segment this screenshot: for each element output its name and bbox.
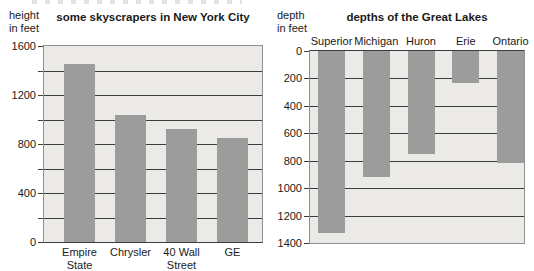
axis-tick (304, 133, 309, 134)
axis-tick (38, 193, 43, 194)
axis-tick (304, 216, 309, 217)
category-label-ontario: Ontario (492, 35, 528, 48)
axis-tick (304, 78, 309, 79)
axis-tick (304, 161, 309, 162)
axis-tick (38, 71, 43, 72)
y-axis-tick-label: 1200 (278, 210, 302, 222)
lakes-chart-title: depths of the Great Lakes (309, 11, 525, 23)
axis-tick (38, 242, 43, 243)
bar-ge (217, 138, 248, 242)
category-label-chrysler: Chrysler (110, 246, 151, 259)
y-axis-tick-label: 1200 (12, 89, 36, 101)
axis-tick (38, 120, 43, 121)
category-label-40-wall-street: 40 Wall Street (163, 246, 199, 271)
bar-erie (452, 51, 479, 83)
axis-tick (304, 243, 309, 244)
axis-tick (304, 51, 309, 52)
height-axis-unit-label: height in feet (9, 9, 39, 35)
bar-empire-state (64, 64, 95, 242)
category-label-ge: GE (225, 246, 241, 259)
depth-axis-unit-label: depth in feet (277, 9, 307, 35)
bar-michigan (363, 51, 390, 177)
y-axis-tick-label: 800 (18, 138, 36, 150)
category-label-huron: Huron (406, 35, 436, 48)
axis-tick (38, 144, 43, 145)
y-axis-tick-label: 1400 (278, 237, 302, 249)
y-axis-tick-label: 200 (284, 72, 302, 84)
skyscrapers-chart-title: some skyscrapers in New York City (43, 11, 263, 23)
y-axis-tick-label: 800 (284, 155, 302, 167)
bar-chrysler (115, 115, 146, 242)
y-axis-tick-label: 400 (18, 187, 36, 199)
category-label-superior: Superior (311, 35, 353, 48)
axis-tick (38, 218, 43, 219)
y-axis-tick-label: 0 (30, 236, 36, 248)
bar-superior (318, 51, 345, 233)
y-axis-tick-label: 600 (284, 127, 302, 139)
category-label-erie: Erie (456, 35, 476, 48)
cropped-text-artifact (32, 0, 242, 4)
bar-huron (408, 51, 435, 154)
category-label-michigan: Michigan (354, 35, 398, 48)
axis-tick (304, 188, 309, 189)
bar-40-wall-street (166, 129, 197, 242)
y-axis-tick-label: 0 (296, 45, 302, 57)
axis-tick (38, 95, 43, 96)
axis-tick (38, 169, 43, 170)
y-axis-tick-label: 1000 (278, 182, 302, 194)
category-label-empire-state: Empire State (62, 246, 97, 271)
skyscrapers-plot-area: 040080012001600Empire StateChrysler40 Wa… (43, 45, 263, 243)
y-axis-tick-label: 400 (284, 100, 302, 112)
bar-ontario (497, 51, 524, 163)
y-axis-tick-label: 1600 (12, 40, 36, 52)
axis-tick (38, 46, 43, 47)
axis-tick (304, 106, 309, 107)
lakes-plot-area: 0200400600800100012001400SuperiorMichiga… (309, 50, 525, 244)
